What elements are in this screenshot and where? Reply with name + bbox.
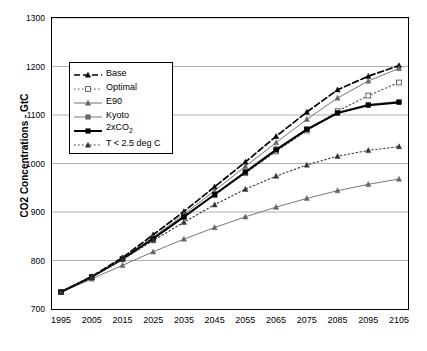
legend-symbol xyxy=(73,137,103,149)
data-point-marker xyxy=(86,115,90,119)
legend-item[interactable]: Base xyxy=(73,66,169,80)
legend-label: T < 2.5 deg C xyxy=(103,138,161,148)
legend-symbol xyxy=(73,123,103,135)
data-point-marker xyxy=(396,144,401,149)
data-point-marker xyxy=(366,93,371,98)
legend-label: E90 xyxy=(103,96,122,106)
legend-item[interactable]: Optimal xyxy=(73,80,169,94)
data-point-marker xyxy=(243,170,247,174)
data-point-marker xyxy=(181,219,186,224)
data-point-marker xyxy=(305,127,309,131)
data-point-marker xyxy=(120,263,125,268)
series-lower-bound-curve xyxy=(58,176,401,294)
chart-legend: BaseOptimalE90Kyoto2xCO2T < 2.5 deg C xyxy=(69,62,173,154)
data-point-marker xyxy=(335,153,340,158)
data-point-marker xyxy=(86,87,91,92)
x-tick-label: 2105 xyxy=(379,315,419,325)
chart-figure: CO2 Concentrations - GtC 130012001100100… xyxy=(0,0,427,351)
data-point-marker xyxy=(86,129,90,133)
data-point-marker xyxy=(212,192,216,196)
legend-symbol xyxy=(73,67,103,79)
plot-area xyxy=(51,17,409,310)
data-point-marker xyxy=(366,148,371,153)
series-line xyxy=(61,179,399,292)
legend-item[interactable]: Kyoto xyxy=(73,108,169,122)
legend-label: Kyoto xyxy=(103,110,129,120)
legend-item[interactable]: T < 2.5 deg C xyxy=(73,136,169,150)
data-point-marker xyxy=(335,111,339,115)
legend-symbol xyxy=(73,109,103,121)
data-point-marker xyxy=(366,103,370,107)
legend-symbol xyxy=(73,81,103,93)
data-point-marker xyxy=(397,80,402,85)
legend-symbol xyxy=(73,95,103,107)
legend-item[interactable]: 2xCO2 xyxy=(73,122,169,136)
legend-label: 2xCO2 xyxy=(103,122,133,136)
data-point-marker xyxy=(212,202,217,207)
legend-label: Base xyxy=(103,68,127,78)
data-point-marker xyxy=(274,148,278,152)
data-point-marker xyxy=(182,215,186,219)
series-t-2-5-deg-c xyxy=(58,144,401,295)
data-point-marker xyxy=(273,134,278,139)
data-point-marker xyxy=(335,95,340,100)
legend-label: Optimal xyxy=(103,82,137,92)
legend-item[interactable]: E90 xyxy=(73,94,169,108)
data-point-marker xyxy=(304,162,309,167)
data-point-marker xyxy=(396,176,401,181)
data-point-marker xyxy=(397,100,401,104)
data-point-marker xyxy=(273,173,278,178)
data-point-marker xyxy=(304,117,309,122)
data-point-marker xyxy=(273,140,278,145)
